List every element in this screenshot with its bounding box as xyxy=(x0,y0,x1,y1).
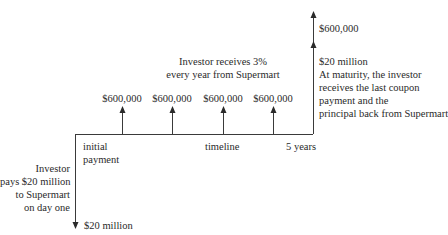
coupon-label-3: $600,000 xyxy=(198,92,248,105)
investor-note-line: to Supermart xyxy=(0,188,70,201)
arrowhead-up-icon xyxy=(170,106,176,113)
final-coupon-label: $600,000 xyxy=(319,22,358,35)
timeline-label: timeline xyxy=(205,140,239,153)
initial-payment-line: payment xyxy=(83,153,119,166)
maturity-note-line: At maturity, the investor xyxy=(319,68,448,81)
principal-label: $20 million xyxy=(319,55,448,68)
coupon-label-2: $600,000 xyxy=(147,92,197,105)
investor-note: Investor pays $20 million to Supermart o… xyxy=(0,162,70,214)
arrowhead-up-icon xyxy=(221,106,227,113)
coupon-label-1: $600,000 xyxy=(97,92,147,105)
arrowhead-up-icon xyxy=(271,106,277,113)
investor-note-line: on day one xyxy=(0,201,70,214)
arrowhead-up-icon xyxy=(120,106,126,113)
initial-payment-label: initial payment xyxy=(83,140,119,166)
maturity-note: $20 million At maturity, the investor re… xyxy=(319,55,448,120)
arrowhead-up-icon xyxy=(311,11,317,18)
coupon-label-4: $600,000 xyxy=(248,92,298,105)
initial-payment-line: initial xyxy=(83,140,119,153)
arrowhead-down-icon xyxy=(73,222,79,229)
coupon-note-line: every year from Supermart xyxy=(148,68,298,81)
maturity-note-line: payment and the xyxy=(319,94,448,107)
arrowhead-up-icon xyxy=(311,41,317,48)
outflow-label: $20 million xyxy=(84,219,133,232)
investor-note-line: Investor xyxy=(0,162,70,175)
coupon-note: Investor receives 3% every year from Sup… xyxy=(148,55,298,81)
investor-note-line: pays $20 million xyxy=(0,175,70,188)
maturity-note-line: receives the last coupon xyxy=(319,81,448,94)
maturity-note-line: principal back from Supermart xyxy=(319,107,448,120)
end-label: 5 years xyxy=(286,140,316,153)
coupon-note-line: Investor receives 3% xyxy=(148,55,298,68)
